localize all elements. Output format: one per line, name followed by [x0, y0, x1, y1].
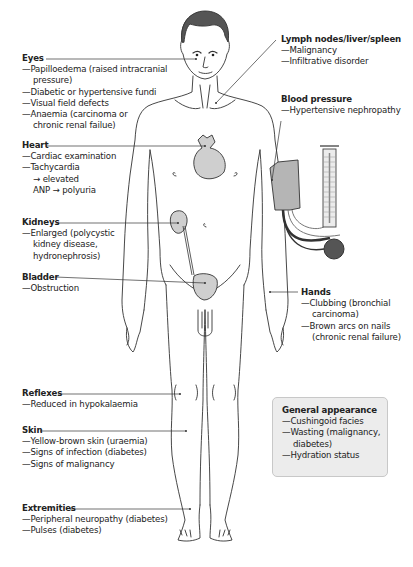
heart-item-cont: → elevated	[22, 174, 116, 185]
reflexes-item: —Reduced in hypokalaemia	[22, 399, 138, 410]
heart-title: Heart	[22, 140, 116, 151]
bladder-title: Bladder	[22, 272, 79, 283]
general-appearance-item-cont: diabetes)	[282, 439, 380, 450]
label-reflexes: Reflexes —Reduced in hypokalaemia	[22, 388, 138, 410]
skin-title: Skin	[22, 425, 148, 436]
eyes-item-cont: chronic renal failue)	[22, 120, 167, 131]
head-icon	[181, 11, 230, 79]
bladder-item: —Obstruction	[22, 283, 79, 294]
extremities-title: Extremities	[22, 503, 168, 514]
hands-item-cont: (chronic renal failure)	[301, 332, 401, 343]
heart-item-cont: ANP → polyuria	[22, 185, 116, 196]
skin-item: —Yellow-brown skin (uraemia)	[22, 436, 148, 447]
general-appearance-item: —Wasting (malignancy,	[282, 427, 380, 438]
general-appearance-title: General appearance	[282, 405, 380, 416]
eyes-item: —Anaemia (carcinoma or	[22, 109, 167, 120]
eyes-item: —Diabetic or hypertensive fundi	[22, 87, 167, 98]
extremities-item: —Peripheral neuropathy (diabetes)	[22, 514, 168, 525]
label-extremities: Extremities —Peripheral neuropathy (diab…	[22, 503, 168, 537]
kidneys-title: Kidneys	[22, 217, 115, 228]
heart-item: —Tachycardia	[22, 162, 116, 173]
hands-title: Hands	[301, 287, 401, 298]
skin-item: —Signs of infection (diabetes)	[22, 447, 148, 458]
lymph-item: —Infiltrative disorder	[281, 56, 401, 67]
eyes-title: Eyes	[22, 53, 167, 64]
extremities-item: —Pulses (diabetes)	[22, 525, 168, 536]
general-appearance-item: —Cushingoid facies	[282, 416, 380, 427]
label-blood-pressure: Blood pressure —Hypertensive nephropathy	[281, 94, 401, 116]
sphygmomanometer-icon	[320, 146, 339, 227]
eyes-item: —Papilloedema (raised intracranial	[22, 64, 167, 75]
hands-item: —Brown arcs on nails	[301, 321, 401, 332]
kidneys-item-cont: hydronephrosis)	[22, 251, 115, 262]
reflexes-title: Reflexes	[22, 388, 138, 399]
label-kidneys: Kidneys —Enlarged (polycystic kidney dis…	[22, 217, 115, 262]
eyes-item: —Visual field defects	[22, 98, 167, 109]
hands-item: —Clubbing (bronchial	[301, 298, 401, 309]
blood-pressure-title: Blood pressure	[281, 94, 401, 105]
lymph-item: —Malignancy	[281, 45, 401, 56]
skin-item: —Signs of malignancy	[22, 459, 148, 470]
label-skin: Skin —Yellow-brown skin (uraemia) —Signs…	[22, 425, 148, 470]
eyes-item-cont: pressure)	[22, 75, 167, 86]
kidneys-item-cont: kidney disease,	[22, 239, 115, 250]
heart-item: —Cardiac examination	[22, 151, 116, 162]
label-heart: Heart —Cardiac examination —Tachycardia …	[22, 140, 116, 196]
blood-pressure-item: —Hypertensive nephropathy	[281, 105, 401, 116]
label-general-appearance: General appearance —Cushingoid facies —W…	[282, 405, 380, 461]
heart-organ-icon	[194, 135, 225, 179]
label-lymph-nodes-liver-spleen: Lymph nodes/liver/spleen —Malignancy —In…	[281, 34, 401, 68]
general-appearance-item: —Hydration status	[282, 450, 380, 461]
label-hands: Hands —Clubbing (bronchial carcinoma) —B…	[301, 287, 401, 343]
kidneys-item: —Enlarged (polycystic	[22, 228, 115, 239]
lymph-title: Lymph nodes/liver/spleen	[281, 34, 401, 45]
kidney-organ-icon	[170, 211, 194, 275]
label-bladder: Bladder —Obstruction	[22, 272, 79, 294]
hands-item-cont: carcinoma)	[301, 309, 401, 320]
bladder-organ-icon	[193, 274, 217, 300]
label-eyes: Eyes —Papilloedema (raised intracranial …	[22, 53, 167, 131]
